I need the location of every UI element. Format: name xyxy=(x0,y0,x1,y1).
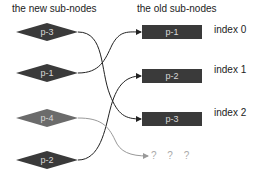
new-node-p2: p-2 xyxy=(16,151,78,169)
new-node-p1: p-1 xyxy=(16,64,78,82)
unknown-target-label: ? ? ? xyxy=(151,150,193,161)
index-label-1: index 1 xyxy=(214,64,246,75)
old-node-p3: p-3 xyxy=(142,112,202,126)
index-label-0: index 0 xyxy=(214,24,246,35)
edge-p4-to-unknown xyxy=(78,118,148,156)
svg-text:p-1: p-1 xyxy=(165,27,178,37)
index-label-2: index 2 xyxy=(214,107,246,118)
edge-p1-to-old-p1 xyxy=(78,32,141,73)
svg-text:p-2: p-2 xyxy=(40,155,53,165)
new-node-p3: p-3 xyxy=(16,23,78,41)
svg-text:p-3: p-3 xyxy=(165,114,178,124)
edge-p3-to-old-p3 xyxy=(78,32,141,119)
svg-text:p-4: p-4 xyxy=(40,113,53,123)
old-node-p1: p-1 xyxy=(142,25,202,39)
svg-text:p-1: p-1 xyxy=(40,68,53,78)
svg-text:p-2: p-2 xyxy=(165,71,178,81)
old-node-p2: p-2 xyxy=(142,69,202,83)
new-node-p4: p-4 xyxy=(16,109,78,127)
svg-text:p-3: p-3 xyxy=(40,27,53,37)
